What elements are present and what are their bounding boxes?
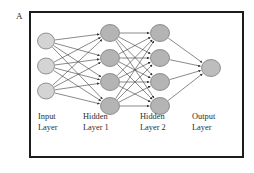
node-hidden2-2 (151, 50, 170, 67)
connection-edge (54, 37, 100, 62)
neural-network-graphic (0, 0, 254, 173)
node-hidden2-3 (151, 74, 170, 91)
layer-label-output: Output Layer (192, 112, 215, 133)
connection-edge (55, 59, 99, 65)
node-hidden1-3 (101, 74, 120, 91)
connection-edge (55, 68, 100, 80)
connection-edge (116, 41, 154, 99)
connection-edge (55, 34, 99, 40)
connection-edge (170, 71, 201, 80)
node-input-2 (38, 58, 55, 74)
edges-group (52, 33, 202, 106)
node-output-1 (202, 60, 221, 77)
node-hidden2-1 (151, 25, 170, 42)
layer-label-hidden-2: Hidden Layer 2 (140, 112, 166, 133)
connection-edge (168, 38, 202, 62)
node-input-3 (38, 83, 55, 99)
connection-edge (170, 60, 201, 66)
connection-edge (54, 62, 100, 87)
connection-edge (54, 46, 101, 77)
connection-edge (55, 43, 100, 55)
connection-edge (168, 74, 202, 101)
node-hidden1-2 (101, 50, 120, 67)
node-input-1 (38, 33, 55, 49)
connection-edge (55, 93, 100, 104)
layer-label-input: Input Layer (38, 112, 58, 133)
nodes-group (38, 25, 221, 115)
layer-label-hidden-1: Hidden Layer 1 (83, 112, 109, 133)
node-hidden1-1 (101, 25, 120, 42)
figure-panel: A Input Layer Hidden Layer 1 Hidden Laye… (0, 0, 254, 173)
